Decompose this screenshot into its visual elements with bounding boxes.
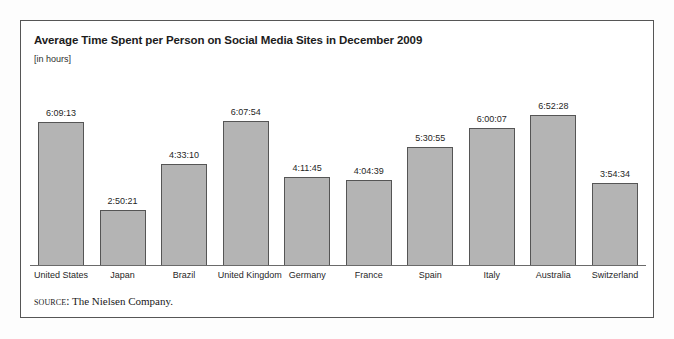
- source-text: The Nielsen Company.: [69, 295, 173, 307]
- x-axis-line: [30, 265, 646, 266]
- bar-group: 6:52:28: [525, 73, 581, 265]
- bar-group: 2:50:21: [95, 73, 151, 265]
- bar: [407, 147, 453, 265]
- figure-frame: Average Time Spent per Person on Social …: [20, 20, 654, 318]
- chart-plot-area: 6:09:132:50:214:33:106:07:544:11:454:04:…: [30, 73, 646, 265]
- bar-value-label: 4:11:45: [279, 163, 335, 173]
- bar-series: 6:09:132:50:214:33:106:07:544:11:454:04:…: [30, 73, 646, 265]
- bar: [161, 164, 207, 265]
- bar-value-label: 3:54:34: [587, 169, 643, 179]
- bar-value-label: 2:50:21: [95, 196, 151, 206]
- bar: [284, 177, 330, 265]
- bar-group: 3:54:34: [587, 73, 643, 265]
- bar-group: 6:07:54: [218, 73, 274, 265]
- bar-value-label: 6:52:28: [525, 101, 581, 111]
- x-axis-label: Brazil: [156, 270, 212, 280]
- x-axis-label: Spain: [402, 270, 458, 280]
- bar-value-label: 6:00:07: [464, 114, 520, 124]
- x-axis-label: Italy: [464, 270, 520, 280]
- bar: [469, 128, 515, 265]
- bar: [223, 121, 269, 265]
- x-axis-label: Australia: [525, 270, 581, 280]
- page-background: Average Time Spent per Person on Social …: [0, 0, 674, 339]
- bar-group: 4:04:39: [341, 73, 397, 265]
- source-label: source:: [34, 295, 69, 307]
- x-axis-label: Japan: [95, 270, 151, 280]
- x-axis-label: Germany: [279, 270, 335, 280]
- x-axis-label: Switzerland: [587, 270, 643, 280]
- bar-value-label: 6:07:54: [218, 107, 274, 117]
- bar-value-label: 4:04:39: [341, 166, 397, 176]
- source-note: source: The Nielsen Company.: [34, 295, 173, 307]
- bar: [38, 122, 84, 265]
- x-axis-label: United States: [33, 270, 89, 280]
- bar-group: 6:00:07: [464, 73, 520, 265]
- bar-group: 6:09:13: [33, 73, 89, 265]
- bar-group: 4:33:10: [156, 73, 212, 265]
- bar: [592, 183, 638, 265]
- chart-units-subtitle: [in hours]: [34, 54, 71, 64]
- x-axis-label: France: [341, 270, 397, 280]
- page-title: Average Time Spent per Person on Social …: [34, 34, 422, 46]
- bar: [100, 210, 146, 265]
- x-axis-label: United Kingdom: [218, 270, 274, 280]
- bar-value-label: 4:33:10: [156, 150, 212, 160]
- bar: [346, 180, 392, 265]
- bar-group: 4:11:45: [279, 73, 335, 265]
- bar: [530, 115, 576, 265]
- x-axis-tick-labels: United StatesJapanBrazilUnited KingdomGe…: [30, 270, 646, 280]
- bar-value-label: 5:30:55: [402, 133, 458, 143]
- bar-value-label: 6:09:13: [33, 108, 89, 118]
- bar-group: 5:30:55: [402, 73, 458, 265]
